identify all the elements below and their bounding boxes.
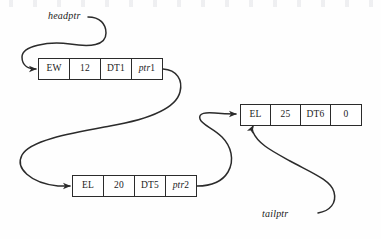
node-2-cell-data: DT5 [135,176,166,196]
node-3-cell-data: DT6 [301,105,331,125]
node-2-cell-next: ptr2 [166,176,196,196]
tailptr-label: tailptr [262,208,288,219]
node-2-next-suffix: 2 [184,181,189,191]
node-1-next-name: ptr [139,64,151,74]
tailptr-connector [252,126,334,213]
linked-list-diagram: EW 12 DT1 ptr1 EL 20 DT5 ptr2 EL 25 DT6 … [0,0,381,239]
node1-to-node2-connector [20,69,180,186]
node-3-cell-type: EL [241,105,271,125]
node-2-next-name: ptr [173,181,185,191]
list-node-1: EW 12 DT1 ptr1 [38,58,163,80]
node-3-cell-quantity: 25 [271,105,301,125]
node-1-cell-quantity: 12 [70,59,101,79]
node-2-cell-quantity: 20 [104,176,135,196]
node2-to-node3-connector [197,113,236,186]
list-node-3: EL 25 DT6 0 [240,104,362,126]
node-2-cell-type: EL [73,176,104,196]
node-1-cell-next: ptr1 [132,59,162,79]
node-3-cell-next: 0 [331,105,361,125]
list-node-2: EL 20 DT5 ptr2 [72,175,197,197]
node-1-next-suffix: 1 [150,64,155,74]
node-1-cell-type: EW [39,59,70,79]
headptr-label: headptr [48,10,81,21]
node-1-cell-data: DT1 [101,59,132,79]
